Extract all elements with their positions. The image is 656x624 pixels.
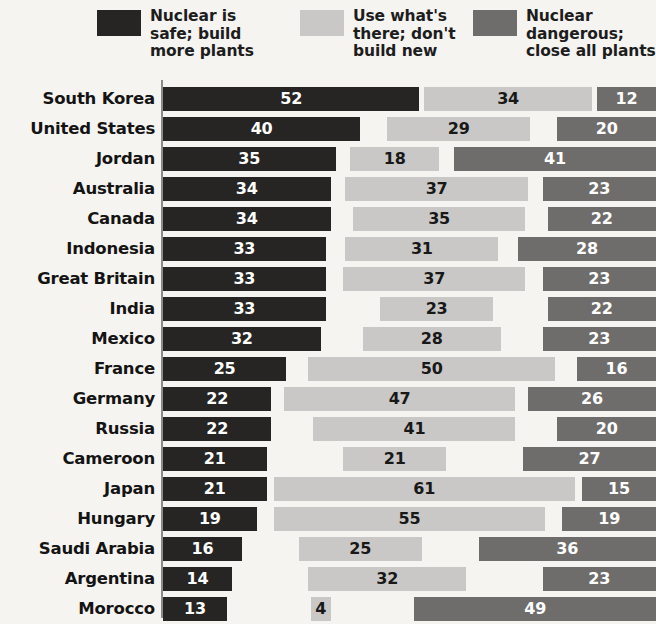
chart-row: Germany224726: [0, 384, 656, 414]
legend-swatch-dangerous-close: [473, 10, 517, 36]
bar-segment-nuclear-dangerous: 36: [479, 537, 656, 561]
bar-value: 49: [524, 601, 546, 617]
chart-row: Canada343522: [0, 204, 656, 234]
bar-segment-nuclear-is-safe: 33: [163, 297, 326, 321]
chart-row: Argentina143223: [0, 564, 656, 594]
bar-value: 37: [426, 181, 448, 197]
country-label: Saudi Arabia: [3, 534, 155, 564]
bar-segment-nuclear-is-safe: 22: [163, 417, 271, 441]
bar-segment-use-what-s-there: 31: [345, 237, 498, 261]
bar-segment-use-what-s-there: 34: [424, 87, 592, 111]
chart-legend: Nuclear is safe; build more plants Use w…: [0, 0, 656, 78]
bar-value: 23: [426, 301, 448, 317]
bar-value: 35: [238, 151, 260, 167]
country-label: France: [3, 354, 155, 384]
bar-value: 37: [423, 271, 445, 287]
row-bars: 224726: [163, 384, 656, 414]
bar-segment-nuclear-is-safe: 34: [163, 177, 331, 201]
bar-value: 16: [192, 541, 214, 557]
row-bars: 402920: [163, 114, 656, 144]
bar-segment-use-what-s-there: 37: [345, 177, 527, 201]
row-label-cameroon: Cameroon: [0, 444, 155, 474]
bar-value: 34: [497, 91, 519, 107]
bar-segment-use-what-s-there: 29: [387, 117, 530, 141]
bar-value: 23: [588, 181, 610, 197]
row-bars: 224120: [163, 414, 656, 444]
legend-label-dangerous-close: Nuclear dangerous; close all plants: [526, 8, 656, 61]
row-bars: 343723: [163, 174, 656, 204]
row-bars: 255016: [163, 354, 656, 384]
row-label-australia: Australia: [0, 174, 155, 204]
row-label-mexico: Mexico: [0, 324, 155, 354]
bar-segment-nuclear-is-safe: 25: [163, 357, 286, 381]
bar-value: 19: [199, 511, 221, 527]
bar-segment-nuclear-is-safe: 33: [163, 267, 326, 291]
bar-value: 29: [448, 121, 470, 137]
country-label: Hungary: [3, 504, 155, 534]
row-label-hungary: Hungary: [0, 504, 155, 534]
bar-value: 22: [591, 211, 613, 227]
chart-row: India332322: [0, 294, 656, 324]
row-bars: 162536: [163, 534, 656, 564]
bar-segment-use-what-s-there: 35: [353, 207, 526, 231]
bar-value: 20: [596, 421, 618, 437]
legend-swatch-use-existing: [300, 10, 344, 36]
bar-value: 15: [608, 481, 630, 497]
row-label-great-britain: Great Britain: [0, 264, 155, 294]
row-bars: 13449: [163, 594, 656, 624]
bar-value: 22: [206, 421, 228, 437]
bar-segment-nuclear-dangerous: 41: [454, 147, 656, 171]
country-label: Japan: [3, 474, 155, 504]
chart-row: South Korea523412: [0, 84, 656, 114]
country-label: Argentina: [3, 564, 155, 594]
bar-segment-nuclear-dangerous: 23: [543, 567, 656, 591]
chart-row: Jordan351841: [0, 144, 656, 174]
bar-value: 32: [231, 331, 253, 347]
row-bars: 523412: [163, 84, 656, 114]
row-bars: 332322: [163, 294, 656, 324]
legend-item-use-existing: Use what's there; don't build new: [300, 8, 455, 61]
bar-segment-nuclear-is-safe: 35: [163, 147, 336, 171]
row-bars: 212127: [163, 444, 656, 474]
legend-item-dangerous-close: Nuclear dangerous; close all plants: [473, 8, 656, 61]
bar-value: 34: [236, 181, 258, 197]
bar-segment-use-what-s-there: 4: [311, 597, 331, 621]
bar-segment-nuclear-is-safe: 32: [163, 327, 321, 351]
bar-segment-nuclear-dangerous: 16: [577, 357, 656, 381]
row-label-france: France: [0, 354, 155, 384]
bar-value: 55: [399, 511, 421, 527]
bar-value: 36: [556, 541, 578, 557]
bar-value: 34: [236, 211, 258, 227]
bar-segment-nuclear-dangerous: 12: [597, 87, 656, 111]
bar-value: 23: [588, 331, 610, 347]
row-bars: 333128: [163, 234, 656, 264]
country-label: United States: [3, 114, 155, 144]
row-bars: 322823: [163, 324, 656, 354]
bar-segment-use-what-s-there: 41: [313, 417, 515, 441]
chart-row: Japan216115: [0, 474, 656, 504]
row-bars: 195519: [163, 504, 656, 534]
bar-value: 33: [233, 301, 255, 317]
bar-segment-use-what-s-there: 21: [343, 447, 447, 471]
country-label: Indonesia: [3, 234, 155, 264]
row-label-germany: Germany: [0, 384, 155, 414]
row-label-japan: Japan: [0, 474, 155, 504]
country-label: South Korea: [3, 84, 155, 114]
bar-segment-nuclear-dangerous: 22: [548, 207, 656, 231]
bar-value: 27: [578, 451, 600, 467]
row-label-south-korea: South Korea: [0, 84, 155, 114]
chart-row: Saudi Arabia162536: [0, 534, 656, 564]
bar-value: 47: [389, 391, 411, 407]
legend-swatch-safe-build-more: [97, 10, 141, 36]
bar-value: 18: [384, 151, 406, 167]
bar-segment-nuclear-is-safe: 40: [163, 117, 360, 141]
row-bars: 351841: [163, 144, 656, 174]
chart-row: United States402920: [0, 114, 656, 144]
row-bars: 343522: [163, 204, 656, 234]
bar-value: 13: [184, 601, 206, 617]
bar-value: 41: [544, 151, 566, 167]
bar-value: 28: [421, 331, 443, 347]
bar-value: 28: [576, 241, 598, 257]
bar-segment-nuclear-dangerous: 20: [557, 117, 656, 141]
bar-segment-use-what-s-there: 28: [363, 327, 501, 351]
